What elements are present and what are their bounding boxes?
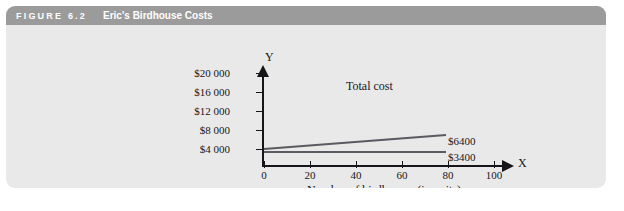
series-end-label-fixed-cost: $3400 — [448, 151, 476, 163]
figure-number: FIGURE 6.2 — [16, 11, 87, 21]
x-axis-title: Number of birdhouses (in units) — [264, 183, 504, 188]
series-line-total-cost — [264, 135, 446, 149]
figure-card: FIGURE 6.2 Eric's Birdhouse Costs Y X $2… — [6, 6, 606, 188]
figure-title: Eric's Birdhouse Costs — [103, 10, 213, 21]
series-end-label-total-cost: $6400 — [448, 135, 476, 147]
annotation-total-cost: Total cost — [346, 79, 393, 94]
chart-plot-area: Y X $20 000 $16 000 $12 000 $8 000 $4 00… — [6, 25, 606, 188]
series-lines — [6, 25, 606, 188]
figure-header: FIGURE 6.2 Eric's Birdhouse Costs — [6, 6, 606, 25]
